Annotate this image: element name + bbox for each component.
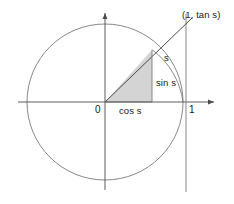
label-tangent-point: (1, tan s)	[182, 10, 221, 20]
y-axis-arrowhead	[103, 13, 108, 19]
unit-circle-diagram	[0, 0, 234, 204]
label-arc-s: s	[164, 53, 169, 63]
label-origin: 0	[95, 105, 101, 115]
label-cos-s: cos s	[119, 106, 142, 116]
shaded-triangle	[105, 50, 152, 102]
label-sin-s: sin s	[156, 78, 176, 88]
x-axis-arrowhead	[208, 100, 214, 105]
unit-circle-figure: (1, tan s) s sin s cos s 0 1	[0, 0, 234, 204]
label-unit-one: 1	[189, 105, 195, 115]
